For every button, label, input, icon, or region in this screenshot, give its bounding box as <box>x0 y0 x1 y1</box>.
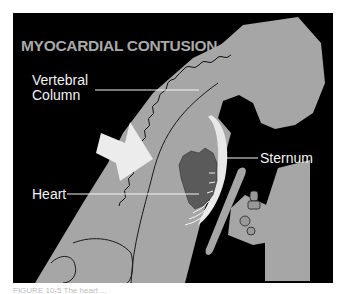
figure-caption: FIGURE 10-5 The heart ... <box>13 287 263 293</box>
label-vertebral-line2: Column <box>32 88 88 103</box>
label-sternum: Sternum <box>260 151 313 166</box>
label-vertebral-line1: Vertebral <box>32 73 88 88</box>
label-vertebral-column: Vertebral Column <box>32 73 88 103</box>
label-heart: Heart <box>32 187 66 202</box>
dashboard <box>265 160 310 281</box>
illustration-panel: MYOCARDIAL CONTUSION Vertebral Column He… <box>13 13 333 283</box>
figure-title: MYOCARDIAL CONTUSION <box>21 37 217 55</box>
